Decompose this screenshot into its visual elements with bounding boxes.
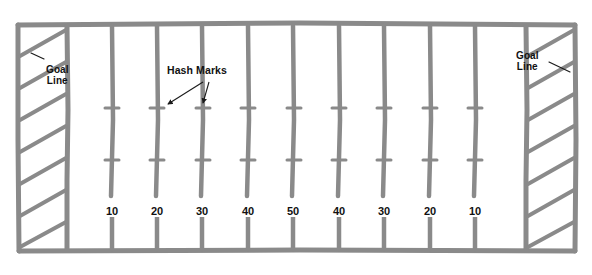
endzone-right-stripe-6 — [528, 190, 574, 216]
goal-line-label-right-line2: Line — [516, 61, 539, 72]
yard-line-40-right-upper — [338, 26, 340, 196]
endzone-left-stripe-6 — [20, 190, 66, 216]
endzone-left-stripe-7 — [20, 222, 66, 247]
field-svg-canvas — [0, 0, 592, 275]
endzone-right-stripe-4 — [528, 126, 574, 152]
yard-line-30-left-upper — [201, 26, 203, 196]
hash-arrow-left — [168, 82, 203, 104]
yard-number: 50 — [286, 205, 300, 217]
endzone-left-stripe-3 — [20, 94, 66, 120]
hash-marks-label: Hash Marks — [167, 65, 227, 77]
yard-number: 30 — [195, 205, 209, 217]
yard-line-20-right-upper — [429, 26, 431, 196]
goal-line-label-right-line1: Goal — [516, 50, 539, 61]
yard-line-20-left-upper — [156, 26, 158, 196]
goal-line-label-right: Goal Line — [516, 50, 539, 72]
goal-line-leader-left — [31, 53, 44, 59]
endzone-left-stripe-1 — [20, 30, 66, 56]
yard-number: 40 — [332, 205, 346, 217]
yard-line-10-left-upper — [111, 26, 113, 196]
endzone-right-stripe-5 — [528, 158, 574, 184]
yard-line-40-left-upper — [247, 26, 249, 196]
endzone-right-stripe-7 — [528, 222, 574, 247]
yard-number: 40 — [241, 205, 255, 217]
endzone-left-stripe-4 — [20, 126, 66, 152]
yard-line-30-right-upper — [383, 26, 385, 196]
goal-line-label-left-line2: Line — [46, 75, 69, 86]
yard-number: 10 — [105, 205, 119, 217]
endzone-right-stripe-3 — [528, 94, 574, 120]
yard-number: 20 — [423, 205, 437, 217]
football-field-diagram: Goal Line Goal Line Hash Marks 102030405… — [0, 0, 592, 275]
sideline-top — [18, 23, 575, 25]
goal-line-label-left-line1: Goal — [46, 64, 69, 75]
endline-right — [575, 25, 576, 251]
goal-line-label-left: Goal Line — [46, 64, 69, 86]
yard-line-10-right-upper — [474, 26, 476, 196]
yard-number: 20 — [150, 205, 164, 217]
goal-line-left — [67, 26, 68, 249]
yard-line-50-upper — [292, 26, 294, 196]
endzone-left-stripe-5 — [20, 158, 66, 184]
yard-number: 10 — [468, 205, 482, 217]
sideline-bottom — [19, 250, 575, 251]
yard-number: 30 — [377, 205, 391, 217]
